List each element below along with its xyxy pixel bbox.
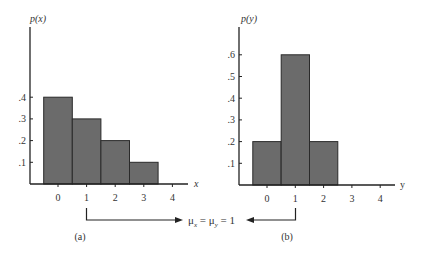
x-axis-label: x [193,178,199,189]
x-tick-label: 2 [113,192,118,203]
y-tick-label: .4 [228,93,236,104]
panel-a-chart: .1.2.3.401234xp(x)(a) [19,13,200,243]
y-axis-label: p(y) [240,13,258,25]
x-tick-label: 3 [141,192,146,203]
mean-equation: μx = μy = 1 [188,214,235,229]
bar-0 [253,142,281,185]
bar-1 [72,119,101,184]
x-axis-label: y [400,179,405,190]
bar-2 [310,142,338,185]
panel-label: (a) [74,231,85,243]
x-tick-label: 4 [170,192,175,203]
panel-b-chart: .1.2.3.4.5.601234yp(y)(b) [228,13,406,243]
bar-3 [130,162,159,184]
x-tick-label: 4 [378,193,383,204]
bar-0 [44,97,73,184]
x-tick-label: 1 [84,192,89,203]
y-tick-label: .2 [228,136,236,147]
y-tick-label: .5 [228,71,236,82]
y-tick-label: .6 [228,49,236,60]
panel-label: (b) [281,231,293,243]
x-tick-label: 0 [56,192,61,203]
arrow-right-bracket [253,208,296,220]
y-tick-label: .3 [19,113,27,124]
x-tick-label: 0 [265,193,270,204]
arrow-head-right-icon [175,217,183,223]
x-tick-label: 2 [321,193,326,204]
y-tick-label: .2 [19,135,27,146]
y-tick-label: .4 [19,92,27,103]
chart-figure: .1.2.3.401234xp(x)(a) .1.2.3.4.5.601234y… [0,0,424,259]
mean-annotation: μx = μy = 1 [87,208,296,229]
arrow-head-left-icon [246,217,254,223]
x-tick-label: 1 [293,193,298,204]
y-tick-label: .1 [19,157,27,168]
y-tick-label: .3 [228,114,236,125]
x-tick-label: 3 [349,193,354,204]
y-axis-label: p(x) [29,13,47,25]
bar-1 [281,55,309,185]
y-tick-label: .1 [228,158,236,169]
bar-2 [101,141,130,184]
arrow-left-bracket [87,208,177,220]
